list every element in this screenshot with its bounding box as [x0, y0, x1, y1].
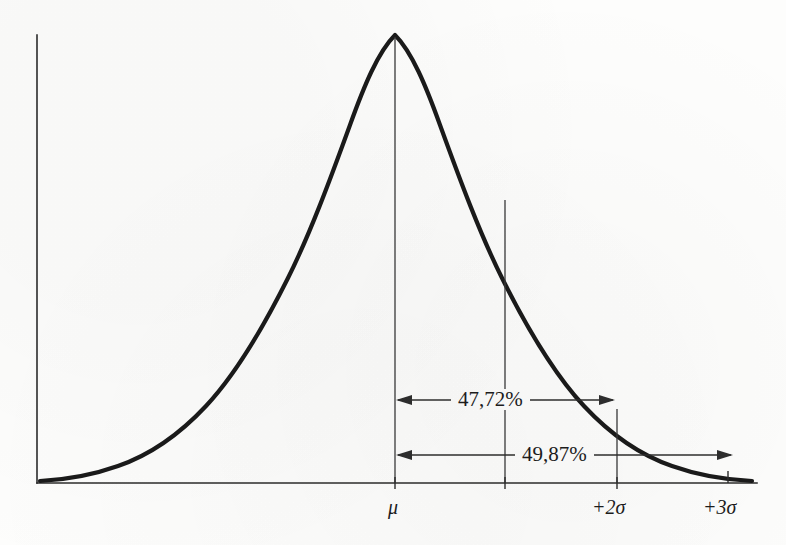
axis-label-three-sigma: +3σ	[703, 497, 736, 517]
normal-distribution-figure: 47,72% 49,87% μ +2σ +3σ	[0, 0, 786, 545]
figure-canvas	[0, 0, 786, 545]
annotation-label-47: 47,72%	[451, 389, 530, 410]
annotation-arrow-47-head-right	[599, 395, 615, 405]
annotation-arrow-49-head-right	[717, 450, 733, 460]
axis-label-mu: μ	[388, 497, 398, 517]
annotation-arrow-47-head-left	[396, 395, 412, 405]
normal-curve	[40, 35, 752, 481]
annotation-arrow-49-head-left	[396, 450, 412, 460]
axis-label-two-sigma: +2σ	[592, 497, 625, 517]
annotation-label-49: 49,87%	[515, 444, 594, 465]
